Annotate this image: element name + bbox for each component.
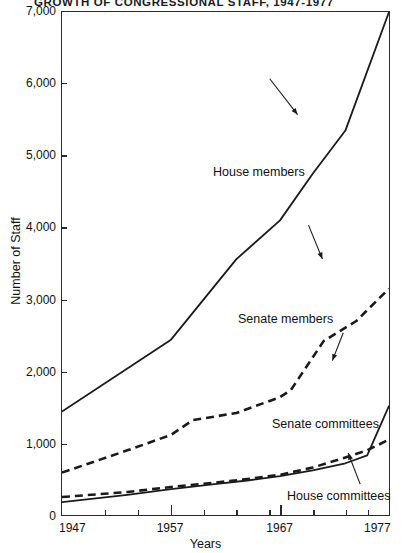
y-axis-labels: 01,0002,0003,0004,0005,0006,0007,000	[0, 11, 56, 516]
annotation-senate-members: Senate members	[238, 313, 333, 326]
y-tick-label: 0	[4, 510, 56, 522]
y-tick-mark	[61, 300, 67, 301]
x-tick-mark	[269, 510, 270, 516]
x-tick-mark	[204, 510, 205, 516]
x-tick-label: 1967	[266, 522, 293, 534]
x-tick-mark	[171, 505, 172, 516]
x-tick-mark	[313, 510, 314, 516]
chart-title: GROWTH OF CONGRESSIONAL STAFF, 1947-1977	[34, 0, 394, 10]
y-tick-mark	[61, 227, 67, 228]
x-tick-label: 1947	[59, 522, 86, 534]
y-tick-mark	[61, 372, 67, 373]
x-tick-mark	[236, 510, 237, 516]
x-tick-label: 1977	[364, 522, 391, 534]
annotation-house-members: House members	[213, 166, 305, 179]
y-tick-label: 1,000	[4, 438, 56, 450]
leader-arrow-senate-committees	[332, 333, 343, 361]
y-tick-mark	[61, 444, 67, 445]
y-tick-label: 2,000	[4, 366, 56, 378]
plot-area	[61, 11, 390, 516]
x-tick-mark	[105, 510, 106, 516]
y-tick-mark	[61, 83, 67, 84]
y-tick-label: 4,000	[4, 221, 56, 233]
annotation-house-committees: House committees	[287, 490, 391, 503]
annotation-senate-committees: Senate committees	[272, 418, 379, 431]
y-tick-label: 7,000	[4, 5, 56, 17]
x-tick-mark	[138, 510, 139, 516]
x-tick-mark	[346, 510, 347, 516]
y-tick-label: 6,000	[4, 77, 56, 89]
chart-container: GROWTH OF CONGRESSIONAL STAFF, 1947-1977…	[0, 0, 411, 553]
x-axis-title: Years	[0, 537, 411, 551]
y-tick-mark	[61, 155, 67, 156]
series-line-senate-members	[62, 289, 389, 473]
y-tick-label: 3,000	[4, 294, 56, 306]
x-tick-mark	[280, 505, 281, 516]
y-tick-label: 5,000	[4, 149, 56, 161]
x-tick-label: 1957	[157, 522, 184, 534]
series-line-house-members	[62, 12, 389, 412]
leader-arrow-senate-members	[308, 225, 322, 259]
x-tick-mark	[368, 510, 369, 516]
leader-arrow-house-members	[270, 79, 298, 115]
series-lines	[62, 12, 389, 515]
